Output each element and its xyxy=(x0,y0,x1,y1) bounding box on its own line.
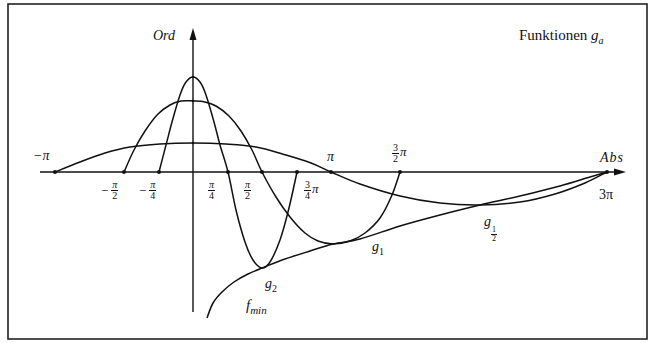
tick-label-neg-quarter-pi: −π4 xyxy=(139,180,156,201)
tick-label-half-pi: π2 xyxy=(244,180,251,201)
frac-den: 4 xyxy=(305,191,310,201)
tick-label-three-half-pi: 32π xyxy=(392,143,407,164)
frac-den: 2 xyxy=(393,154,398,164)
curve-f_min xyxy=(207,172,607,318)
tick-label-neg-pi: −π xyxy=(33,149,49,163)
title-subscript: a xyxy=(599,35,604,46)
frac-den: 2 xyxy=(112,191,117,201)
y-axis-arrow-icon xyxy=(190,28,197,40)
curves-group xyxy=(55,76,607,318)
chart-title: Funktionen ga xyxy=(519,28,604,46)
label-main: g xyxy=(484,214,491,229)
tick-label-three-pi: 3π xyxy=(599,188,613,202)
minus-sign: − xyxy=(139,184,146,197)
label-sub: 1 xyxy=(379,246,384,257)
pi-symbol: π xyxy=(312,181,319,196)
curve-label-g2: g2 xyxy=(265,277,277,294)
x-axis-arrow-icon xyxy=(614,169,626,176)
title-text: Funktionen xyxy=(519,27,591,43)
frac-den: 2 xyxy=(245,191,250,201)
label-main: g xyxy=(265,276,272,291)
minus-sign: − xyxy=(101,184,108,197)
peak-dot xyxy=(192,76,195,79)
peak-dot xyxy=(192,100,195,103)
frac-den: 4 xyxy=(150,191,155,201)
title-symbol: g xyxy=(591,27,599,43)
peak-dot xyxy=(192,142,195,145)
tick-label-quarter-pi: π4 xyxy=(208,180,215,201)
label-sub: min xyxy=(250,304,267,316)
curve-label-g-half: g12 xyxy=(484,215,497,243)
frac-den: 4 xyxy=(209,191,214,201)
tick-label-pi: π xyxy=(327,150,334,164)
plot-canvas xyxy=(0,0,651,343)
pi-symbol: π xyxy=(400,144,407,159)
frac-den: 2 xyxy=(492,235,496,243)
label-sub: 2 xyxy=(272,283,277,294)
x-axis-label: Abs xyxy=(600,151,624,165)
tick-label-neg-half-pi: −π2 xyxy=(101,180,118,201)
tick-label-three-quarter-pi: 34π xyxy=(304,180,319,201)
curve-label-g1: g1 xyxy=(372,240,384,257)
curve-label-fmin: fmin xyxy=(246,298,267,316)
label-main: g xyxy=(372,239,379,254)
y-axis-label: Ord xyxy=(153,29,175,43)
